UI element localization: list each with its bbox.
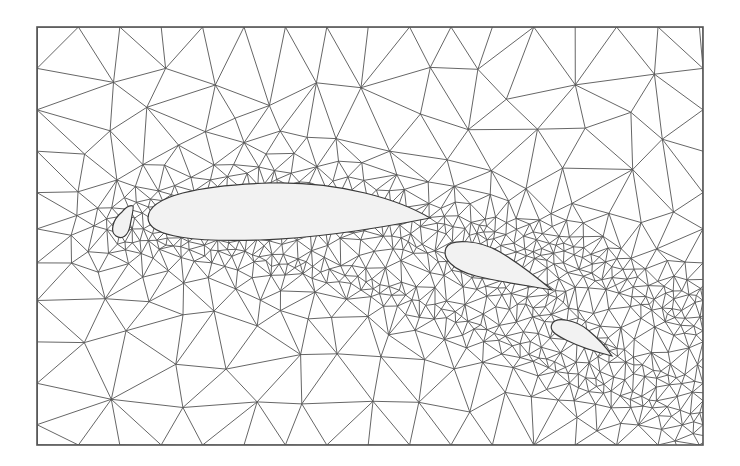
mesh-canvas xyxy=(0,0,740,466)
triangular-mesh xyxy=(37,27,723,463)
airfoil-mesh-figure xyxy=(0,0,740,466)
main-element-body xyxy=(148,183,430,241)
flap-1-body xyxy=(445,242,552,290)
mesh-edges xyxy=(37,27,723,463)
